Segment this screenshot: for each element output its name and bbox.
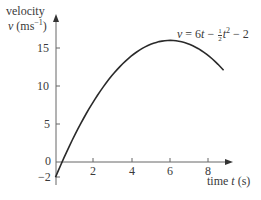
y-unit: (ms: [13, 19, 34, 33]
y-unit-close: ): [43, 19, 47, 33]
eq-den: 2: [218, 36, 222, 43]
x-tick-2: 2: [90, 165, 96, 177]
y-tick-0: 0: [45, 155, 51, 167]
eq-minus: −: [204, 27, 217, 41]
y-tick-neg2: −2: [38, 171, 51, 183]
x-unit: (s): [235, 174, 251, 188]
x-tick-6: 6: [167, 165, 173, 177]
x-label-text: time: [207, 174, 231, 188]
y-axis-label-line1: velocity: [6, 5, 45, 17]
equation-annotation: v = 6t − 12t2 − 2: [177, 27, 249, 43]
y-tick-15: 15: [37, 42, 49, 54]
y-tick-10: 10: [37, 80, 49, 92]
x-axis-arrow-icon: [225, 159, 233, 165]
y-axis-arrow-icon: [53, 14, 59, 22]
x-axis-label: time t (s): [207, 175, 250, 187]
eq-6: = 6: [182, 27, 201, 41]
y-axis: [53, 14, 60, 185]
y-unit-exp: −1: [34, 18, 43, 27]
x-tick-4: 4: [129, 165, 135, 177]
y-axis-label-line2: v (ms−1): [8, 19, 47, 32]
y-tick-5: 5: [44, 118, 50, 130]
eq-tail: − 2: [230, 27, 249, 41]
velocity-curve: [56, 40, 224, 177]
eq-half: 12: [218, 28, 222, 43]
